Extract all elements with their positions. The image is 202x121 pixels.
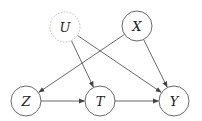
edge-u-t — [71, 41, 93, 87]
node-z: Z — [11, 86, 41, 116]
causal-graph: UXZTY — [0, 0, 202, 121]
nodes: UXZTY — [11, 11, 189, 116]
node-label: X — [131, 19, 142, 34]
node-u: U — [50, 12, 80, 42]
node-label: U — [60, 20, 72, 35]
edge-u-y — [77, 35, 161, 92]
node-y: Y — [159, 86, 189, 116]
node-label: Z — [20, 94, 31, 109]
node-t: T — [85, 86, 115, 116]
node-label: Y — [170, 94, 180, 109]
edge-x-y — [144, 39, 168, 87]
node-label: T — [96, 94, 106, 109]
edge-x-z — [39, 34, 125, 92]
node-x: X — [122, 11, 152, 41]
